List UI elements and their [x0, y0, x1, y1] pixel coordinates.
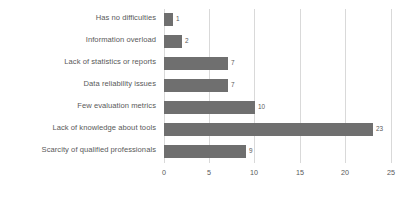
bar-row: 7 — [164, 53, 392, 75]
category-label: Has no difficulties — [0, 13, 156, 22]
bar — [164, 101, 255, 114]
plot-area: 1 2 7 7 10 23 9 — [164, 9, 392, 163]
category-label: Few evaluation metrics — [0, 101, 156, 110]
xtick-label: 10 — [250, 168, 258, 177]
bar-row: 9 — [164, 141, 392, 163]
category-label: Scarcity of qualified professionals — [0, 145, 156, 154]
bar-chart: Has no difficulties Information overload… — [0, 0, 413, 197]
bar-value-label: 7 — [231, 59, 235, 67]
xtick-label: 5 — [207, 168, 211, 177]
category-label: Data reliability issues — [0, 79, 156, 88]
bar-value-label: 1 — [176, 15, 180, 23]
bar — [164, 145, 246, 158]
bar — [164, 13, 173, 26]
category-label: Information overload — [0, 35, 156, 44]
xtick-label: 0 — [162, 168, 166, 177]
bar-row: 10 — [164, 97, 392, 119]
bar-value-label: 7 — [231, 81, 235, 89]
bar — [164, 35, 182, 48]
bar-value-label: 10 — [258, 103, 265, 111]
category-axis-labels: Has no difficulties Information overload… — [0, 9, 160, 163]
xtick-label: 15 — [296, 168, 304, 177]
category-label: Lack of statistics or reports — [0, 57, 156, 66]
bar-row: 2 — [164, 31, 392, 53]
bar-row: 1 — [164, 9, 392, 31]
xtick-label: 20 — [341, 168, 349, 177]
bar-row: 7 — [164, 75, 392, 97]
bar-row: 23 — [164, 119, 392, 141]
bar — [164, 57, 228, 70]
bar — [164, 79, 228, 92]
bar — [164, 123, 373, 136]
bar-value-label: 23 — [376, 125, 383, 133]
value-axis: 0 5 10 15 20 25 — [164, 163, 392, 183]
xtick-label: 25 — [387, 168, 395, 177]
bar-value-label: 2 — [185, 37, 189, 45]
bar-value-label: 9 — [249, 147, 253, 155]
category-label: Lack of knowledge about tools — [0, 123, 156, 132]
